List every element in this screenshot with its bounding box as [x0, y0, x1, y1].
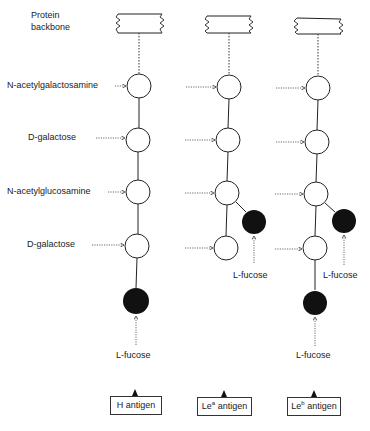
lea-antigen-suffix: antigen: [215, 401, 247, 411]
protein-backbone-label-line2: backbone: [31, 22, 70, 33]
l-fucose-node: [242, 210, 266, 234]
antigen-structure-diagram: [0, 0, 370, 431]
sugar-label-d-galactose-2: D-galactose: [27, 239, 75, 250]
sugar-label-n-acetylgalactosamine: N-acetylgalactosamine: [7, 80, 98, 91]
protein-backbone-icon: [205, 16, 253, 33]
l-fucose-node: [123, 288, 149, 314]
sugar-label-d-galactose: D-galactose: [28, 132, 76, 143]
h-antigen-pointer-icon: [132, 389, 138, 396]
h-antigen-chain: [92, 14, 164, 345]
protein-backbone-icon: [294, 18, 343, 34]
sugar-d-galactose: [126, 128, 150, 152]
fucose-label-h: L-fucose: [116, 350, 151, 361]
leb-antigen-pointer-icon: [311, 390, 317, 397]
lea-antigen-box: Lea antigen: [197, 397, 252, 416]
sugar-n-acetylglucosamine: [126, 180, 150, 204]
l-fucose-node: [332, 209, 356, 233]
sugar-d-galactose-terminal: [125, 234, 149, 258]
h-antigen-box: H antigen: [110, 396, 162, 415]
leb-antigen-prefix: Le: [291, 401, 301, 411]
fucose-label-lea: L-fucose: [233, 270, 268, 281]
l-fucose-node: [303, 291, 327, 315]
leb-antigen-suffix: antigen: [305, 401, 337, 411]
lea-antigen-prefix: Le: [202, 401, 212, 411]
leb-antigen-box: Leb antigen: [287, 397, 341, 416]
h-antigen-suffix: antigen: [123, 400, 155, 410]
lea-antigen-pointer-icon: [221, 390, 227, 397]
protein-backbone-icon: [116, 14, 164, 33]
fucose-label-leb-side: L-fucose: [323, 270, 358, 281]
sugar-label-n-acetylglucosamine: N-acetylglucosamine: [7, 186, 91, 197]
lea-antigen-chain: [185, 16, 266, 263]
sugar-n-acetylgalactosamine: [127, 74, 151, 98]
fucose-label-leb-bottom: L-fucose: [296, 350, 331, 361]
protein-backbone-label-line1: Protein: [31, 10, 60, 21]
leb-antigen-chain: [275, 18, 356, 346]
